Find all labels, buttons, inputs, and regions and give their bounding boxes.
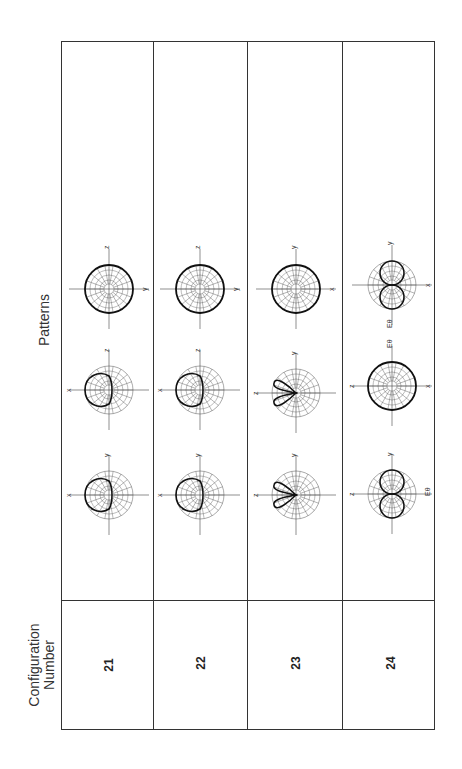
svg-text:y: y [232, 287, 240, 291]
svg-text:y: y [141, 287, 149, 291]
pattern-23-1 [256, 455, 336, 535]
pattern-22-2 [160, 350, 240, 430]
svg-text:z: z [103, 245, 110, 249]
svg-text:Eθ: Eθ [386, 339, 393, 348]
svg-text:x: x [424, 283, 431, 287]
pattern-21-1 [69, 455, 149, 535]
svg-text:y: y [386, 452, 394, 456]
svg-text:z: z [194, 348, 201, 352]
svg-text:y: y [290, 351, 298, 355]
pattern-22-3 [160, 249, 240, 329]
pattern-23-2 [256, 353, 336, 433]
svg-text:y: y [103, 453, 111, 457]
pattern-24-3 [352, 245, 432, 325]
svg-text:x: x [328, 287, 335, 291]
pattern-24-2 [352, 346, 432, 426]
svg-text:x: x [156, 388, 163, 392]
svg-text:y: y [290, 245, 298, 249]
svg-text:x: x [424, 384, 431, 388]
svg-text:z: z [252, 391, 259, 395]
pattern-21-3 [69, 249, 149, 329]
pattern-24-1 [352, 454, 432, 534]
pattern-22-1 [160, 455, 240, 535]
svg-text:y: y [194, 453, 202, 457]
pattern-21-2 [69, 350, 149, 430]
svg-text:x: x [65, 493, 72, 497]
svg-text:z: z [103, 348, 110, 352]
svg-text:Eθ: Eθ [424, 487, 431, 496]
svg-text:x: x [156, 493, 163, 497]
patterns-canvas: x y x z z y x y x z z y z y z y y x z y … [0, 0, 462, 769]
svg-text:y: y [386, 241, 394, 245]
svg-text:z: z [348, 384, 355, 388]
svg-text:Eθ: Eθ [386, 319, 393, 328]
svg-text:y: y [290, 453, 298, 457]
pattern-23-3 [256, 249, 336, 329]
svg-text:z: z [252, 493, 259, 497]
svg-text:x: x [65, 388, 72, 392]
svg-text:z: z [348, 492, 355, 496]
svg-text:z: z [194, 245, 201, 249]
